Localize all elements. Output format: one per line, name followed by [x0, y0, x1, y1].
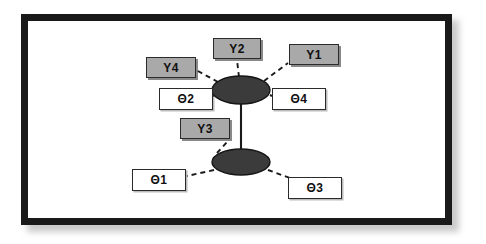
edge-top-y4: [196, 70, 218, 82]
error-label-theta1: Θ1: [150, 174, 167, 186]
indicator-label-y3: Y3: [197, 123, 213, 135]
indicator-box-y1[interactable]: Y1: [289, 44, 339, 65]
error-label-theta2: Θ2: [177, 93, 194, 105]
indicator-label-y1: Y1: [306, 49, 322, 61]
error-label-theta3: Θ3: [306, 182, 323, 194]
indicator-label-y4: Y4: [163, 62, 179, 74]
edge-top-y2: [237, 60, 239, 77]
error-box-theta2[interactable]: Θ2: [159, 88, 213, 110]
edge-bottom-t3: [268, 170, 290, 178]
edge-top-y1: [264, 63, 288, 81]
error-box-theta3[interactable]: Θ3: [288, 177, 342, 199]
indicator-box-y3[interactable]: Y3: [180, 118, 230, 139]
latent-factor-bottom-ellipse[interactable]: [212, 149, 270, 175]
indicator-box-y2[interactable]: Y2: [213, 38, 261, 59]
error-label-theta4: Θ4: [290, 93, 307, 105]
edge-bottom-t1: [187, 170, 214, 176]
error-box-theta1[interactable]: Θ1: [132, 169, 186, 191]
error-box-theta4[interactable]: Θ4: [272, 88, 326, 110]
screenshot-root: Y4 Y2 Y1 Y3 Θ2 Θ4 Θ1 Θ3: [0, 0, 486, 244]
diagram-canvas: [0, 0, 486, 244]
indicator-box-y4[interactable]: Y4: [146, 57, 196, 78]
indicator-label-y2: Y2: [229, 43, 245, 55]
latent-factor-top-ellipse[interactable]: [212, 76, 270, 104]
